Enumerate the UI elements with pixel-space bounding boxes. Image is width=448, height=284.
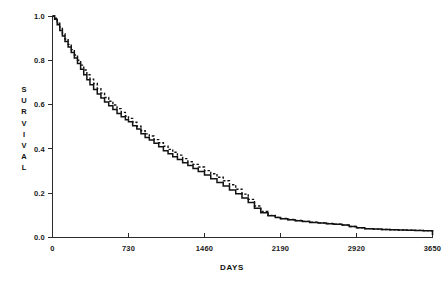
y-axis-title-letter: S: [21, 85, 26, 94]
y-axis-title-letter: R: [21, 107, 27, 116]
y-tick-label: 0.2: [34, 189, 45, 198]
y-axis-title-letter: I: [23, 130, 25, 139]
y-tick-label: 1.0: [34, 12, 45, 21]
y-tick-group: 0.00.20.40.60.81.0: [34, 12, 53, 243]
x-tick-label: 0: [50, 244, 54, 253]
survival-plot: 0.00.20.40.60.81.0 07301460219029203650 …: [0, 0, 448, 284]
y-tick-label: 0.6: [34, 100, 45, 109]
x-tick-label: 2920: [348, 244, 366, 253]
y-axis-title-letter: L: [22, 163, 27, 172]
survival-chart-figure: 0.00.20.40.60.81.0 07301460219029203650 …: [0, 0, 448, 284]
survival-curve-solid: [53, 16, 433, 235]
y-tick-label: 0.0: [34, 233, 45, 242]
y-axis-title: SURVIVAL: [21, 85, 27, 172]
x-tick-label: 3650: [424, 244, 442, 253]
x-tick-group: 07301460219029203650: [50, 233, 441, 254]
y-axis-title-letter: V: [21, 119, 26, 128]
x-axis-title: DAYS: [220, 263, 244, 272]
y-tick-label: 0.8: [34, 56, 45, 65]
x-tick-label: 730: [122, 244, 135, 253]
y-axis-title-letter: V: [21, 141, 26, 150]
x-tick-label: 1460: [196, 244, 214, 253]
survival-curve-dashed: [53, 16, 433, 235]
y-axis-title-letter: U: [21, 96, 26, 105]
x-tick-label: 2190: [272, 244, 290, 253]
axes-group: [52, 16, 433, 238]
curve-group: [53, 16, 433, 235]
y-axis-title-letter: A: [21, 152, 27, 161]
y-tick-label: 0.4: [34, 145, 46, 154]
